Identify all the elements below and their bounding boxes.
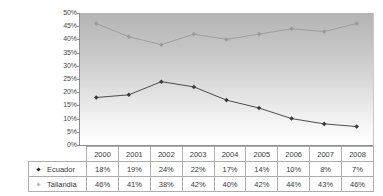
table-header-2004: 2004 <box>214 147 246 162</box>
table-cell-tailandia-2002: 38% <box>150 177 182 192</box>
y-tick-label: 10% <box>63 114 77 121</box>
data-point-tailandia-2003 <box>192 32 197 37</box>
plot-block: 0%5%10%15%20%25%30%35%40%45%50% <box>0 0 383 146</box>
y-tick-mark <box>77 92 80 93</box>
y-tick-label: 15% <box>63 101 77 108</box>
data-point-ecuador-2001 <box>127 93 132 98</box>
table-header-row: 200020012002200320042005200620072008 <box>29 147 374 162</box>
table-header-2001: 2001 <box>118 147 150 162</box>
y-tick-mark <box>77 119 80 120</box>
data-point-ecuador-2007 <box>322 122 327 127</box>
table-header-2006: 2006 <box>278 147 310 162</box>
data-point-tailandia-2005 <box>257 32 262 37</box>
table-cell-ecuador-2002: 24% <box>150 162 182 177</box>
data-point-tailandia-2000 <box>94 21 99 26</box>
plot-right-edge <box>373 13 374 146</box>
y-tick-mark <box>77 105 80 106</box>
table-cell-tailandia-2005: 42% <box>246 177 278 192</box>
y-tick-label: 25% <box>63 75 77 82</box>
table-cell-tailandia-2000: 46% <box>87 177 119 192</box>
table-cell-ecuador-2005: 14% <box>246 162 278 177</box>
y-tick-label: 30% <box>63 61 77 68</box>
table-cell-tailandia-2001: 41% <box>118 177 150 192</box>
table-cell-tailandia-2007: 43% <box>310 177 342 192</box>
table-cell-tailandia-2006: 44% <box>278 177 310 192</box>
y-axis: 0%5%10%15%20%25%30%35%40%45%50% <box>48 12 80 145</box>
y-tick-label: 5% <box>67 127 77 134</box>
y-tick-label: 40% <box>63 35 77 42</box>
y-tick-label: 50% <box>63 9 77 16</box>
table-cell-ecuador-2008: 7% <box>342 162 374 177</box>
table-cell-ecuador-2003: 22% <box>182 162 214 177</box>
table-header-2005: 2005 <box>246 147 278 162</box>
table-corner-cell <box>29 147 87 162</box>
table-header-2002: 2002 <box>150 147 182 162</box>
table-cell-ecuador-2000: 18% <box>87 162 119 177</box>
table-cell-ecuador-2006: 10% <box>278 162 310 177</box>
data-point-ecuador-2006 <box>289 116 294 121</box>
y-tick-label: 35% <box>63 48 77 55</box>
legend-marker-icon <box>31 180 45 189</box>
table-row: Ecuador18%19%24%22%17%14%10%8%7% <box>29 162 374 177</box>
legend-label: Ecuador <box>45 165 75 174</box>
table-cell-tailandia-2008: 46% <box>342 177 374 192</box>
table-cell-tailandia-2003: 42% <box>182 177 214 192</box>
data-point-ecuador-2005 <box>257 106 262 111</box>
data-point-ecuador-2002 <box>159 79 164 84</box>
legend-marker-icon <box>31 165 45 174</box>
data-point-ecuador-2000 <box>94 95 99 100</box>
legend-cell-tailandia: Tailandia <box>29 177 87 192</box>
table-cell-ecuador-2007: 8% <box>310 162 342 177</box>
y-tick-mark <box>77 39 80 40</box>
table-header-2008: 2008 <box>342 147 374 162</box>
data-point-tailandia-2008 <box>354 21 359 26</box>
series-layer <box>80 13 373 145</box>
data-point-tailandia-2004 <box>224 37 229 42</box>
y-tick-mark <box>77 132 80 133</box>
y-tick-mark <box>77 13 80 14</box>
y-tick-label: 20% <box>63 88 77 95</box>
data-point-ecuador-2003 <box>192 85 197 90</box>
legend-label: Tailandia <box>45 180 77 189</box>
y-tick-mark <box>77 79 80 80</box>
legend-cell-ecuador: Ecuador <box>29 162 87 177</box>
line-chart-with-data-table: 0%5%10%15%20%25%30%35%40%45%50% 20002001… <box>0 0 383 196</box>
table-header-2000: 2000 <box>87 147 119 162</box>
table-header-2007: 2007 <box>310 147 342 162</box>
data-point-tailandia-2007 <box>322 29 327 34</box>
data-point-tailandia-2001 <box>127 34 132 39</box>
y-tick-mark <box>77 53 80 54</box>
data-point-ecuador-2008 <box>354 124 359 129</box>
y-tick-mark <box>77 26 80 27</box>
table-cell-ecuador-2001: 19% <box>118 162 150 177</box>
table-cell-tailandia-2004: 40% <box>214 177 246 192</box>
y-tick-label: 45% <box>63 22 77 29</box>
table-row: Tailandia46%41%38%42%40%42%44%43%46% <box>29 177 374 192</box>
data-point-tailandia-2002 <box>159 42 164 47</box>
plot-area <box>80 13 373 145</box>
table-header-2003: 2003 <box>182 147 214 162</box>
data-point-tailandia-2006 <box>289 27 294 32</box>
series-line-ecuador <box>96 82 356 127</box>
data-point-ecuador-2004 <box>224 98 229 103</box>
data-table: 200020012002200320042005200620072008 Ecu… <box>28 146 374 192</box>
table-cell-ecuador-2004: 17% <box>214 162 246 177</box>
y-tick-mark <box>77 66 80 67</box>
